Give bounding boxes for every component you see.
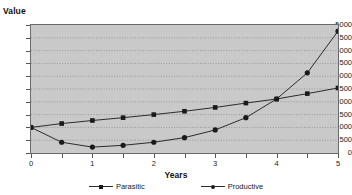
data-point-parasitic: [182, 109, 187, 114]
data-point-parasitic: [336, 86, 338, 91]
legend-item-parasitic[interactable]: Parasitic: [89, 182, 145, 191]
data-point-parasitic: [244, 101, 249, 106]
x-tick-label: 4: [269, 160, 285, 168]
data-point-productive: [182, 135, 187, 140]
data-point-productive: [305, 70, 310, 75]
data-point-productive: [274, 96, 279, 101]
x-tick-mark: [31, 154, 32, 158]
series-line-parasitic: [31, 88, 338, 127]
x-tick-mark: [185, 154, 186, 158]
legend-label: Productive: [228, 182, 263, 191]
data-point-productive: [335, 29, 338, 34]
y-axis-title: Value: [3, 6, 26, 16]
data-point-productive: [90, 145, 95, 150]
legend-item-productive[interactable]: Productive: [201, 182, 263, 191]
x-tick-mark: [62, 154, 63, 158]
data-point-parasitic: [152, 112, 157, 117]
x-tick-mark: [307, 154, 308, 158]
x-tick-mark: [277, 154, 278, 158]
legend-square-icon: [89, 185, 113, 189]
legend-circle-icon: [201, 185, 225, 189]
data-point-productive: [243, 115, 248, 120]
x-tick-mark: [246, 154, 247, 158]
x-tick-label: 0: [23, 160, 39, 168]
data-point-parasitic: [59, 121, 64, 126]
x-tick-mark: [215, 154, 216, 158]
data-point-productive: [121, 143, 126, 148]
x-axis-title: Years: [0, 170, 352, 180]
x-tick-mark: [154, 154, 155, 158]
data-point-productive: [59, 140, 64, 145]
data-point-parasitic: [90, 118, 95, 123]
data-point-productive: [213, 127, 218, 132]
legend-label: Parasitic: [116, 182, 145, 191]
x-tick-mark: [338, 154, 339, 158]
line-chart: Value 0500100015002000250030003500400045…: [0, 0, 352, 195]
x-tick-mark: [92, 154, 93, 158]
data-point-parasitic: [305, 91, 310, 96]
x-tick-label: 3: [207, 160, 223, 168]
x-tick-label: 2: [146, 160, 162, 168]
data-point-parasitic: [121, 115, 126, 120]
chart-legend: ParasiticProductive: [0, 182, 352, 191]
x-tick-mark: [123, 154, 124, 158]
x-tick-label: 1: [84, 160, 100, 168]
data-point-productive: [151, 140, 156, 145]
x-tick-label: 5: [330, 160, 346, 168]
data-point-parasitic: [213, 105, 218, 110]
series-canvas: [31, 25, 338, 153]
plot-area: [30, 24, 339, 154]
